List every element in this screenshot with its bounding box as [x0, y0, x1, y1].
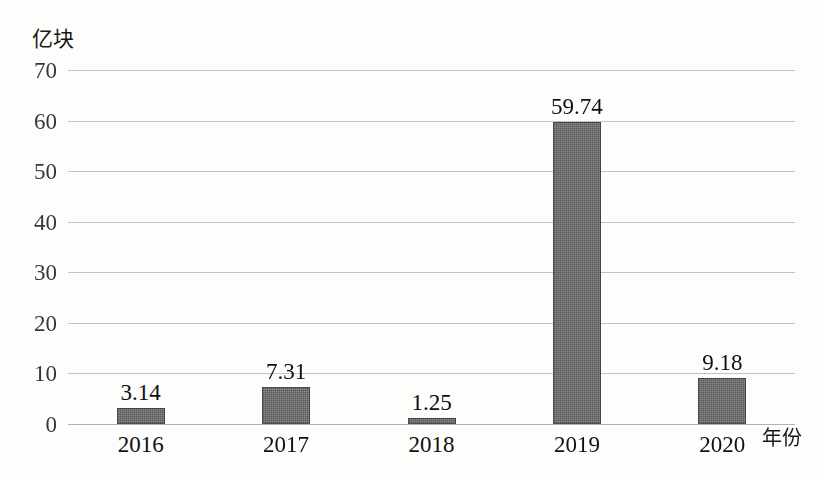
- bar-2016: 3.142016: [117, 408, 165, 424]
- plot-area: 7060504030201003.1420167.3120171.2520185…: [68, 70, 795, 424]
- gridline: 60: [68, 121, 795, 122]
- bar-value-label: 1.25: [411, 391, 451, 414]
- y-axis-tick-label: 70: [34, 59, 57, 82]
- y-axis-tick-label: 30: [34, 261, 57, 284]
- gridline: 50: [68, 171, 795, 172]
- chart-page: 亿块 7060504030201003.1420167.3120171.2520…: [0, 0, 824, 479]
- x-axis-tick-label: 2020: [699, 433, 745, 456]
- y-axis-tick-label: 40: [34, 210, 57, 233]
- y-axis-tick-label: 10: [34, 362, 57, 385]
- gridline: 20: [68, 323, 795, 324]
- y-axis-tick-label: 20: [34, 311, 57, 334]
- x-axis-tick-label: 2016: [118, 433, 164, 456]
- x-axis-unit-label: 年份: [762, 428, 802, 448]
- bar-value-label: 59.74: [551, 95, 603, 118]
- gridline: 40: [68, 222, 795, 223]
- bar-value-label: 9.18: [702, 351, 742, 374]
- y-axis-tick-label: 0: [46, 413, 58, 436]
- bar-2017: 7.312017: [262, 387, 310, 424]
- y-axis-tick-label: 50: [34, 160, 57, 183]
- x-axis-tick-label: 2018: [409, 433, 455, 456]
- x-axis-tick-label: 2019: [554, 433, 600, 456]
- y-axis-tick-label: 60: [34, 109, 57, 132]
- bar-value-label: 3.14: [121, 381, 161, 404]
- bar-2020: 9.182020: [698, 378, 746, 424]
- gridline: 10: [68, 373, 795, 374]
- axis-baseline: 0: [68, 424, 795, 425]
- bar-2018: 1.252018: [408, 418, 456, 424]
- y-axis-unit-label: 亿块: [32, 29, 74, 50]
- gridline: 70: [68, 70, 795, 71]
- bar-2019: 59.742019: [553, 122, 601, 424]
- x-axis-tick-label: 2017: [263, 433, 309, 456]
- gridline: 30: [68, 272, 795, 273]
- bar-value-label: 7.31: [266, 360, 306, 383]
